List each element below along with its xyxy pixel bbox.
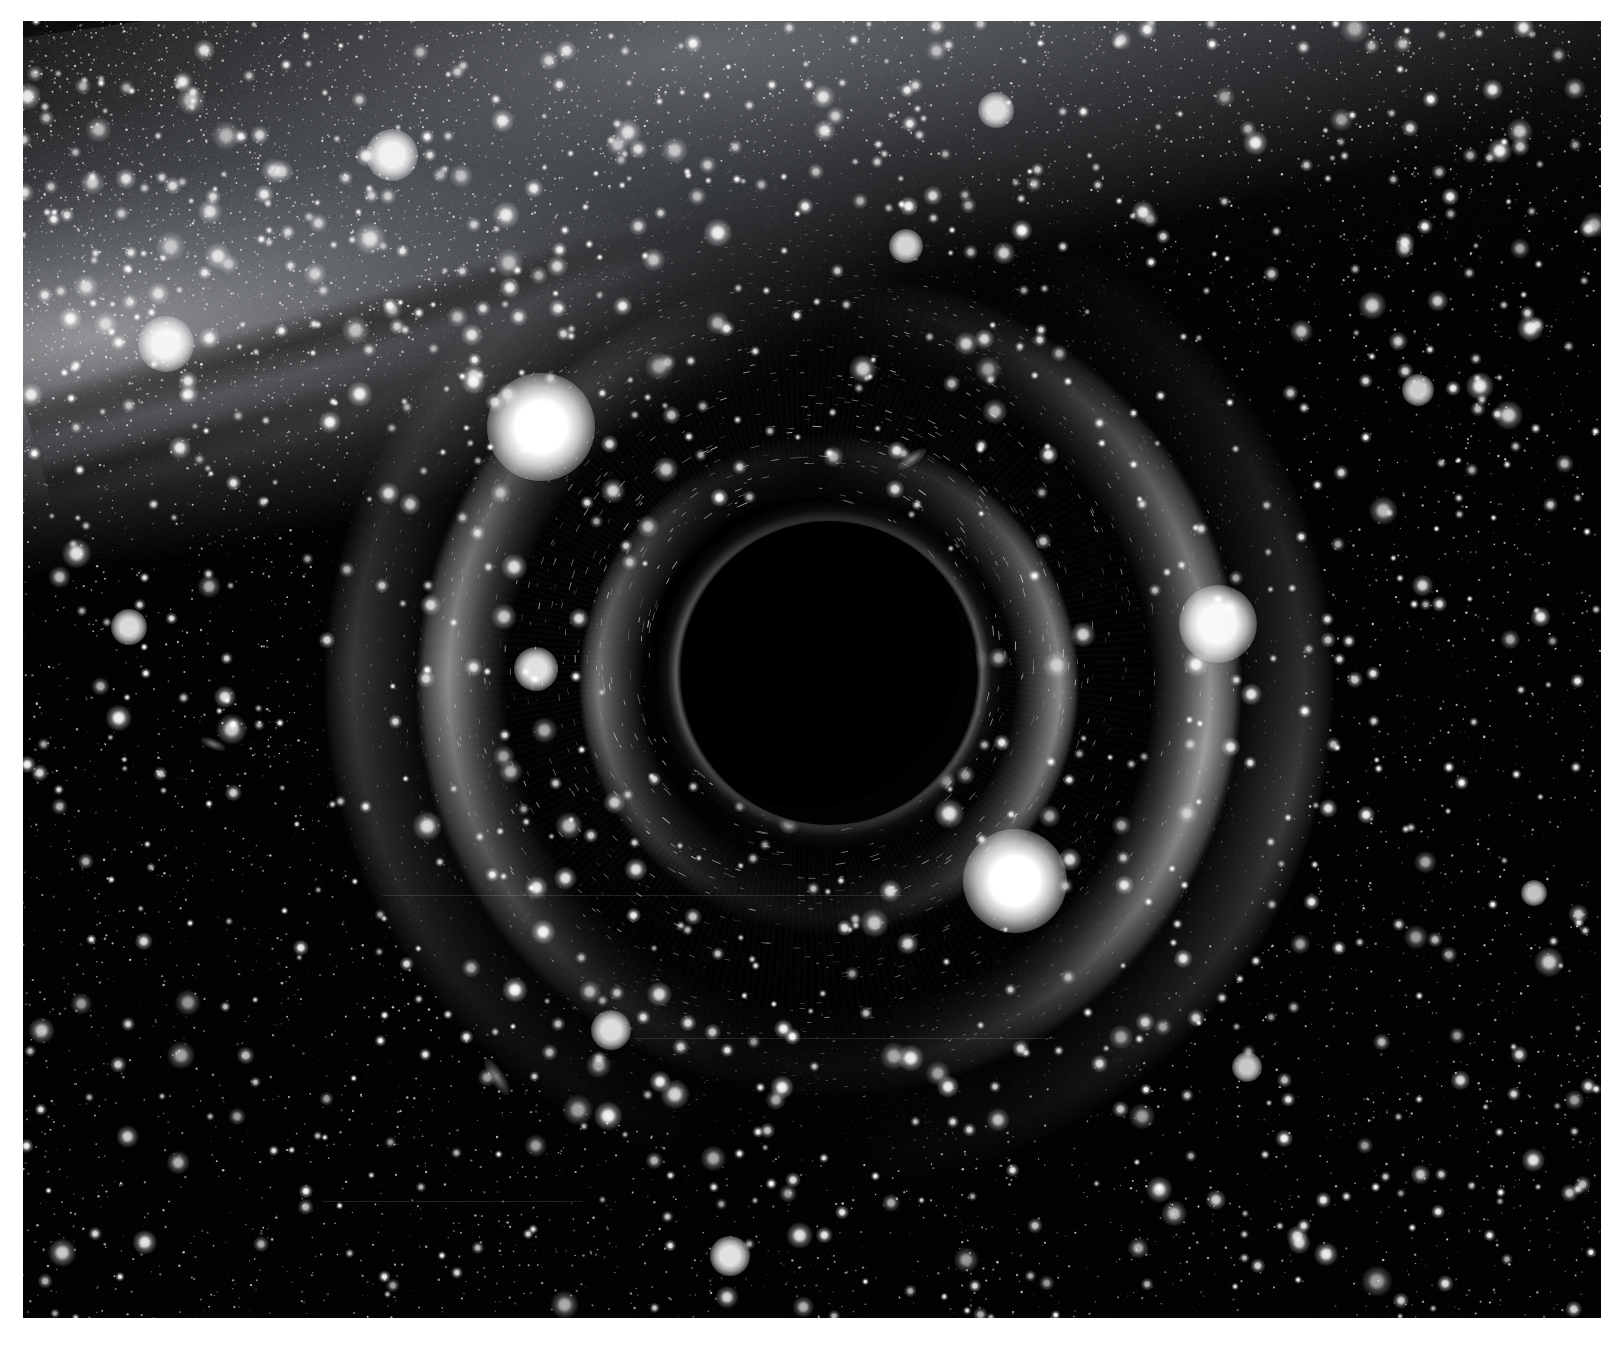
page-margin-bottom xyxy=(0,1318,1621,1347)
lensed-starfield-plate xyxy=(23,21,1601,1318)
page-margin-right xyxy=(1601,0,1621,1347)
black-hole-image-page xyxy=(0,0,1621,1347)
image-grain-overlay xyxy=(23,21,1601,1318)
page-margin-top xyxy=(0,0,1621,21)
page-margin-left xyxy=(0,0,23,1347)
